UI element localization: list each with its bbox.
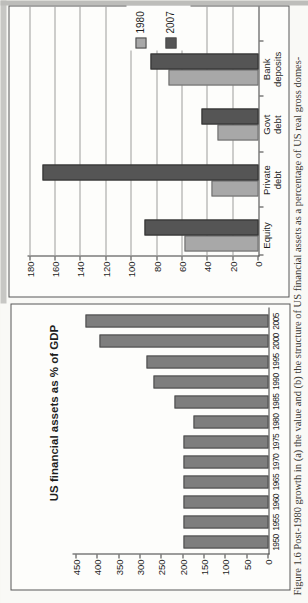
y-axis-label: 140 [74, 261, 85, 293]
y-axis-tick [182, 554, 183, 558]
bar-govt-debt-2007 [201, 108, 258, 124]
y-axis-label: 40 [201, 261, 212, 293]
gridline-160 [54, 6, 55, 255]
bar-1955 [183, 515, 268, 528]
y-axis-label: 80 [151, 261, 162, 293]
y-axis-label: 300 [134, 559, 145, 591]
bar-equity-2007 [144, 219, 258, 235]
bar-private-debt-1980 [211, 180, 258, 196]
chart-a-plot-area: 0501001502002503003504004501950195519601… [72, 307, 269, 554]
y-axis-label: 150 [198, 559, 209, 591]
chart-a-title: US financial assets as % of GDP [47, 306, 59, 519]
y-axis-tick [160, 554, 161, 558]
y-axis-tick [203, 554, 204, 558]
legend-swatch-2007 [165, 37, 176, 48]
category-label-bank-deposits: Bank deposits [261, 37, 282, 101]
y-axis-label: 350 [113, 559, 124, 591]
y-axis-label: 250 [155, 559, 166, 591]
x-axis-label-1960: 1960 [270, 491, 280, 512]
y-axis-label: 60 [176, 261, 187, 293]
y-axis-tick [267, 554, 268, 558]
bar-2000 [99, 335, 268, 348]
rotated-figure-stage: US financial assets as % of GDP 05010015… [0, 0, 308, 603]
y-axis-tick [96, 554, 97, 558]
bar-bank-deposits-1980 [168, 69, 258, 85]
bar-1965 [183, 475, 268, 488]
bar-1950 [183, 536, 268, 549]
y-axis-tick [232, 256, 233, 260]
category-label-equity: Equity [261, 203, 272, 267]
legend-label-2007: 2007 [164, 11, 175, 33]
bar-1980 [193, 415, 268, 428]
scan-edge-artifact-top [0, 0, 6, 303]
category-label-private-debt: Private debt [261, 148, 282, 212]
y-axis-label: 0 [262, 559, 273, 591]
y-axis-label: 180 [24, 261, 35, 293]
chart-b-asset-structure: 020406080100120140160180EquityPrivate de… [8, 5, 289, 297]
y-axis-label: 450 [70, 559, 81, 591]
y-axis-label: 400 [91, 559, 102, 591]
bar-1960 [183, 495, 268, 508]
x-axis-label-1975: 1975 [270, 431, 280, 452]
y-axis-tick [105, 256, 106, 260]
y-axis-tick [139, 554, 140, 558]
y-axis-tick [75, 554, 76, 558]
y-axis-label: 100 [219, 559, 230, 591]
y-axis-tick [181, 256, 182, 260]
gridline-180 [29, 6, 30, 255]
bar-equity-1980 [184, 235, 258, 251]
y-axis-tick [54, 256, 55, 260]
y-axis-tick [246, 554, 247, 558]
y-axis-label: 200 [177, 559, 188, 591]
figure-caption: Figure 1.6 Post-1980 growth in (a) the v… [291, 1, 306, 595]
x-axis-label-1995: 1995 [270, 351, 280, 372]
y-axis-label: 120 [100, 261, 111, 293]
y-axis-tick [224, 554, 225, 558]
chart-a-us-financial-assets: US financial assets as % of GDP 05010015… [10, 303, 290, 590]
y-axis-label: 160 [49, 261, 60, 293]
bar-govt-debt-1980 [217, 124, 258, 140]
bar-1985 [174, 395, 268, 408]
gridline-120 [105, 6, 106, 255]
chart-b-legend: 19802007 [126, 5, 190, 50]
x-axis-label-1965: 1965 [270, 471, 280, 492]
x-axis-label-2000: 2000 [270, 331, 280, 352]
y-axis-tick [130, 256, 131, 260]
legend-label-1980: 1980 [134, 11, 145, 33]
x-axis-label-1990: 1990 [270, 371, 280, 392]
x-axis-label-1980: 1980 [270, 411, 280, 432]
x-axis-label-1970: 1970 [270, 451, 280, 472]
y-axis-tick [206, 256, 207, 260]
y-axis-label: 20 [227, 261, 238, 293]
scan-edge-artifact-right [0, 0, 308, 5]
bar-bank-deposits-2007 [150, 53, 258, 69]
gridline-40 [206, 6, 207, 255]
bar-2005 [85, 314, 268, 327]
bar-private-debt-2007 [42, 164, 258, 180]
scanned-page-viewport: US financial assets as % of GDP 05010015… [0, 0, 308, 603]
y-axis-tick [79, 256, 80, 260]
x-axis-label-1950: 1950 [270, 532, 280, 553]
y-axis-label: 100 [125, 261, 136, 293]
bar-1995 [146, 355, 268, 368]
y-axis-tick [257, 256, 258, 260]
category-label-govt-debt: Govt debt [261, 92, 282, 156]
y-axis-tick [118, 554, 119, 558]
x-axis-label-1985: 1985 [270, 391, 280, 412]
x-axis-label-1955: 1955 [270, 511, 280, 532]
bar-1975 [183, 435, 268, 448]
legend-swatch-1980 [135, 37, 146, 48]
x-axis-label-2005: 2005 [270, 310, 280, 331]
bar-1970 [183, 455, 268, 468]
gridline-140 [79, 6, 80, 255]
bar-1990 [153, 375, 268, 388]
y-axis-label: 50 [241, 559, 252, 591]
y-axis-tick [29, 256, 30, 260]
y-axis-tick [156, 256, 157, 260]
